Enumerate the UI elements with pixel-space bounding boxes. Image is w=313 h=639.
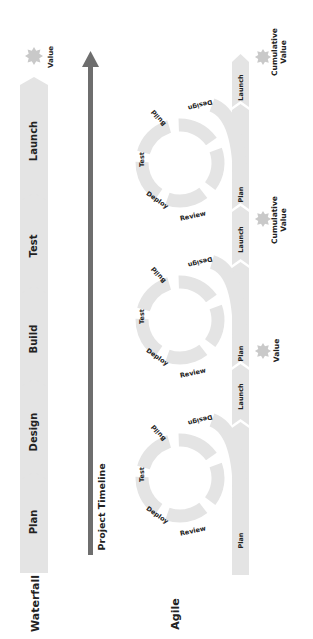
agile-iter3-plan: Plan bbox=[237, 180, 246, 210]
waterfall-value-label: Value bbox=[47, 42, 57, 72]
waterfall-value-star-icon bbox=[25, 47, 43, 65]
agile-iter2-launch: Launch bbox=[237, 223, 246, 257]
agile-iter2-plan: Plan bbox=[237, 339, 246, 369]
diagram-graphics bbox=[0, 0, 313, 639]
waterfall-phase-plan: Plan bbox=[28, 502, 40, 542]
agile-iter1-plan: Plan bbox=[237, 526, 246, 556]
agile-value-star-icon bbox=[255, 343, 271, 359]
cumulative-line2: Value bbox=[279, 192, 288, 248]
waterfall-phase-design: Design bbox=[28, 404, 40, 460]
agile-cumulative-value-label-2: Cumulative Value bbox=[270, 24, 290, 80]
agile-cumulative-value-star-icon-2 bbox=[255, 49, 271, 65]
agile-iter3-launch: Launch bbox=[237, 71, 246, 105]
cumulative-line1: Cumulative bbox=[270, 24, 279, 80]
cumulative-line2: Value bbox=[279, 24, 288, 80]
agile-value-label: Value bbox=[272, 336, 283, 366]
waterfall-phase-launch: Launch bbox=[28, 113, 40, 169]
cycle1-test: Test bbox=[138, 461, 147, 489]
waterfall-label: Waterfall bbox=[29, 588, 43, 632]
cycle3-test: Test bbox=[138, 146, 147, 174]
timeline-label: Project Timeline bbox=[96, 475, 109, 551]
cycle2-test: Test bbox=[138, 303, 147, 331]
cumulative-line1: Cumulative bbox=[270, 192, 279, 248]
waterfall-phase-test: Test bbox=[28, 221, 40, 271]
agile-label: Agile bbox=[169, 596, 183, 632]
agile-iter1-launch: Launch bbox=[237, 380, 246, 414]
agile-cumulative-value-star-icon-1 bbox=[255, 211, 271, 227]
waterfall-phase-build: Build bbox=[28, 314, 40, 364]
agile-cumulative-value-label-1: Cumulative Value bbox=[270, 192, 290, 248]
